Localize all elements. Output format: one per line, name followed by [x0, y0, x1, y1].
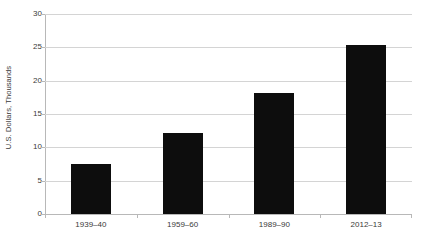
x-axis-tick-mark — [45, 214, 46, 218]
gridline — [45, 14, 412, 15]
x-axis-tick-label: 1939–40 — [75, 221, 106, 229]
y-axis-tick-mark — [41, 214, 45, 215]
bar — [163, 133, 203, 214]
x-axis-tick-label: 1959–60 — [167, 221, 198, 229]
y-axis-tick-mark — [41, 47, 45, 48]
bar — [346, 45, 386, 214]
x-axis-tick-label: 2012–13 — [351, 221, 382, 229]
bar-chart: U.S. Dollars, Thousands 051015202530 193… — [0, 0, 426, 245]
x-axis-tick-mark — [229, 214, 230, 218]
x-axis-tick-marks — [45, 214, 412, 219]
y-axis-tick-labels: 051015202530 — [0, 14, 42, 214]
y-axis-tick-mark — [41, 81, 45, 82]
y-axis-tick-label: 10 — [4, 143, 42, 151]
x-axis-tick-mark — [320, 214, 321, 218]
x-axis-tick-mark — [411, 214, 412, 218]
bar — [71, 164, 111, 214]
y-axis-tick-mark — [41, 147, 45, 148]
y-axis-tick-mark — [41, 14, 45, 15]
x-axis-tick-mark — [137, 214, 138, 218]
y-axis-tick-mark — [41, 181, 45, 182]
y-axis-tick-label: 15 — [4, 110, 42, 118]
y-axis-tick-label: 20 — [4, 77, 42, 85]
y-axis-tick-label: 5 — [4, 177, 42, 185]
y-axis-tick-label: 25 — [4, 43, 42, 51]
y-axis-tick-label: 30 — [4, 10, 42, 18]
bar — [254, 93, 294, 214]
x-axis-tick-labels: 1939–401959–601989–902012–13 — [45, 221, 412, 237]
x-axis-tick-label: 1989–90 — [259, 221, 290, 229]
plot-area — [45, 14, 412, 214]
y-axis-tick-mark — [41, 114, 45, 115]
y-axis-tick-label: 0 — [4, 210, 42, 218]
